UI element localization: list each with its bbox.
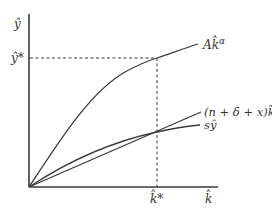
solow-diagram: ŷ ŷ* k̂* k̂ Ak̂α (n + δ + x)k̂ sŷ [0, 0, 272, 212]
k-star-label: k̂* [150, 189, 163, 206]
y-star-label: ŷ* [10, 51, 24, 65]
production-curve [29, 44, 198, 187]
saving-curve [29, 125, 200, 187]
x-axis-label: k̂ [205, 189, 212, 206]
y-axis-label: ŷ [13, 17, 21, 31]
saving-curve-label: sŷ [204, 118, 217, 132]
break-even-line [29, 112, 201, 187]
production-curve-label: Ak̂α [202, 35, 225, 52]
break-even-line-label: (n + δ + x)k̂ [204, 105, 272, 119]
